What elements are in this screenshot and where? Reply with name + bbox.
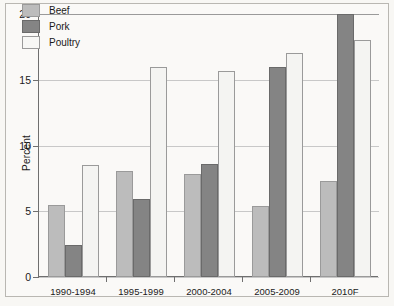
plot-area: 05101520 1990-19941995-19992000-20042005… [38,14,378,277]
y-tick-label-15: 15 [19,74,31,86]
bar-pork[interactable] [65,245,82,277]
legend-item-pork[interactable]: Pork [22,20,80,33]
bar-pork[interactable] [133,199,150,277]
x-tick [174,277,175,282]
legend-swatch-pork [22,20,40,33]
y-tick-label-0: 0 [25,271,31,283]
bars-container [311,14,379,277]
bar-pork[interactable] [269,67,286,277]
bar-pork[interactable] [337,14,354,277]
y-tick-label-5: 5 [25,205,31,217]
bar-pork[interactable] [201,164,218,277]
legend-label: Pork [49,21,70,32]
bar-beef[interactable] [184,174,201,277]
bars-container [39,14,107,277]
legend-label: Poultry [49,37,80,48]
bars-container [175,14,243,277]
bars-container [243,14,311,277]
bars-container [107,14,175,277]
bar-beef[interactable] [116,171,133,278]
bar-groups: 1990-19941995-19992000-20042005-20092010… [39,14,379,277]
bar-poultry[interactable] [82,165,99,277]
bar-poultry[interactable] [150,67,167,277]
legend-swatch-beef [22,4,40,17]
y-tick-label-10: 10 [19,140,31,152]
bar-poultry[interactable] [218,71,235,277]
x-tick-label: 1990-1994 [39,286,107,297]
x-tick [106,277,107,282]
gridline-0 [39,277,379,278]
bar-beef[interactable] [252,206,269,277]
x-tick-label: 2000-2004 [175,286,243,297]
x-tick-label: 2005-2009 [243,286,311,297]
x-tick [242,277,243,282]
bar-group: 2005-2009 [243,14,311,277]
x-tick [310,277,311,282]
bar-group: 2000-2004 [175,14,243,277]
bar-beef[interactable] [320,181,337,277]
legend-label: Beef [49,5,70,16]
bar-group: 2010F [311,14,379,277]
bar-group: 1995-1999 [107,14,175,277]
x-tick-label: 1995-1999 [107,286,175,297]
bar-poultry[interactable] [286,53,303,277]
bar-beef[interactable] [48,205,65,277]
bar-chart-figure: Percent 05101520 1990-19941995-19992000-… [0,0,394,306]
y-tick-0 [33,277,39,278]
x-tick-label: 2010F [311,286,379,297]
legend-item-poultry[interactable]: Poultry [22,36,80,49]
bar-poultry[interactable] [354,40,371,277]
chart-legend: BeefPorkPoultry [22,4,80,49]
legend-item-beef[interactable]: Beef [22,4,80,17]
bar-group: 1990-1994 [39,14,107,277]
legend-swatch-poultry [22,36,40,49]
